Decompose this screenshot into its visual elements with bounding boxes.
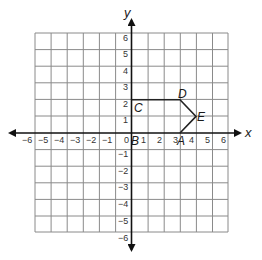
vertex-label-b: B bbox=[131, 134, 139, 148]
vertex-label-a: A bbox=[176, 134, 185, 148]
y-tick-label: −6 bbox=[118, 233, 128, 243]
x-tick-label: −6 bbox=[22, 135, 32, 145]
y-tick-label: 1 bbox=[123, 115, 128, 125]
x-tick-label: 5 bbox=[205, 135, 210, 145]
y-tick-label: 6 bbox=[123, 33, 128, 43]
x-tick-label: 6 bbox=[221, 135, 226, 145]
x-axis-label: x bbox=[244, 125, 252, 140]
x-tick-label: 1 bbox=[141, 135, 146, 145]
x-tick-label: 4 bbox=[189, 135, 194, 145]
x-tick-label: −3 bbox=[70, 135, 80, 145]
x-tick-label: −5 bbox=[38, 135, 48, 145]
y-tick-label: −2 bbox=[118, 166, 128, 176]
y-tick-label: 3 bbox=[123, 82, 128, 92]
y-tick-label: −4 bbox=[118, 199, 128, 209]
y-tick-label: 5 bbox=[123, 49, 128, 59]
x-tick-label: −4 bbox=[54, 135, 64, 145]
x-tick-label: 0 bbox=[124, 135, 129, 145]
x-tick-label: −1 bbox=[102, 135, 112, 145]
vertex-label-d: D bbox=[178, 87, 187, 101]
coordinate-plane: y x −6 −5 −4 −3 −2 −1 0 1 2 3 4 5 6 1 2 … bbox=[0, 0, 262, 260]
y-tick-label: −1 bbox=[118, 149, 128, 159]
x-tick-labels: −6 −5 −4 −3 −2 −1 0 1 2 3 4 5 6 bbox=[22, 135, 226, 145]
x-tick-label: 2 bbox=[157, 135, 162, 145]
y-tick-label: −3 bbox=[118, 182, 128, 192]
y-axis-label: y bbox=[123, 5, 132, 20]
y-tick-label: 4 bbox=[123, 66, 128, 76]
vertex-label-e: E bbox=[197, 110, 206, 124]
vertex-label-c: C bbox=[134, 101, 143, 115]
y-tick-label: −5 bbox=[118, 216, 128, 226]
y-tick-label: 2 bbox=[123, 99, 128, 109]
x-tick-label: −2 bbox=[86, 135, 96, 145]
